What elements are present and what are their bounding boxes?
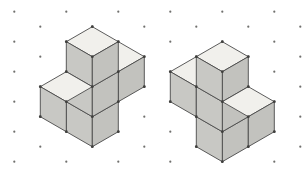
cube-vertex-dot xyxy=(273,100,276,103)
grid-dot xyxy=(299,86,301,88)
grid-dot xyxy=(273,71,275,73)
cube-vertex-dot xyxy=(117,100,120,103)
grid-dot xyxy=(299,146,301,148)
grid-dot xyxy=(117,11,119,13)
grid-dot xyxy=(13,41,15,43)
grid-dot xyxy=(299,56,301,58)
grid-dot xyxy=(221,11,223,13)
grid-dot xyxy=(273,11,275,13)
cube-vertex-dot xyxy=(169,70,172,73)
grid-dot xyxy=(65,11,67,13)
grid-dot xyxy=(247,26,249,28)
grid-dot xyxy=(13,161,15,163)
grid-dot xyxy=(13,71,15,73)
grid-dot xyxy=(39,26,41,28)
cube-vertex-dot xyxy=(221,160,224,163)
grid-dot xyxy=(13,11,15,13)
grid-dot xyxy=(273,41,275,43)
grid-dot xyxy=(169,41,171,43)
isometric-dot-paper xyxy=(0,0,308,176)
cube-vertex-dot xyxy=(273,130,276,133)
grid-dot xyxy=(143,146,145,148)
cube-vertex-dot xyxy=(65,100,68,103)
grid-dot xyxy=(117,161,119,163)
cube-vertex-dot xyxy=(65,40,68,43)
cube-vertex-dot xyxy=(65,70,68,73)
cube-vertex-dot xyxy=(247,55,250,58)
cube-vertex-dot xyxy=(91,55,94,58)
cube-vertex-dot xyxy=(39,115,42,118)
grid-dot xyxy=(299,26,301,28)
cube-vertex-dot xyxy=(247,115,250,118)
grid-dot xyxy=(39,56,41,58)
grid-dot xyxy=(169,11,171,13)
cube-vertex-dot xyxy=(91,145,94,148)
cube-vertex-dot xyxy=(221,40,224,43)
cube-vertex-dot xyxy=(195,145,198,148)
cube-vertex-dot xyxy=(143,85,146,88)
cube-vertex-dot xyxy=(65,130,68,133)
isometric-figures-canvas xyxy=(0,0,308,176)
cube-vertex-dot xyxy=(221,70,224,73)
cube-vertex-dot xyxy=(91,115,94,118)
cube-vertex-dot xyxy=(195,85,198,88)
cube-vertex-dot xyxy=(91,25,94,28)
cube-vertex-dot xyxy=(39,85,42,88)
cube-vertex-dot xyxy=(247,85,250,88)
grid-dot xyxy=(143,26,145,28)
cube-vertex-dot xyxy=(91,85,94,88)
cube-vertex-dot xyxy=(169,100,172,103)
cube-vertex-dot xyxy=(221,100,224,103)
grid-dot xyxy=(143,116,145,118)
grid-dot xyxy=(195,26,197,28)
grid-dot xyxy=(39,146,41,148)
grid-dot xyxy=(169,131,171,133)
cube-vertex-dot xyxy=(195,115,198,118)
cube-vertex-dot xyxy=(143,55,146,58)
grid-dot xyxy=(299,116,301,118)
cube-vertex-dot xyxy=(117,130,120,133)
cube-vertex-dot xyxy=(221,130,224,133)
grid-dot xyxy=(13,131,15,133)
cube-vertex-dot xyxy=(247,145,250,148)
cube-vertex-dot xyxy=(117,40,120,43)
grid-dot xyxy=(65,161,67,163)
grid-dot xyxy=(169,161,171,163)
cube-vertex-dot xyxy=(195,55,198,58)
cube-vertex-dot xyxy=(117,70,120,73)
grid-dot xyxy=(13,101,15,103)
grid-dot xyxy=(273,161,275,163)
